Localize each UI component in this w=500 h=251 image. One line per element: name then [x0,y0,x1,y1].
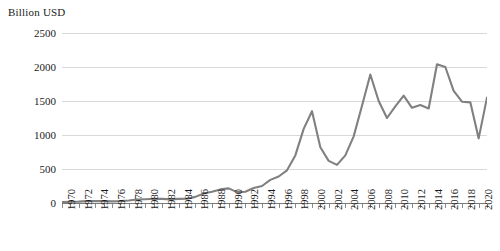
x-axis-tick-label: 1974 [99,189,110,210]
x-axis-tick-label: 2018 [466,189,477,210]
x-axis-tick-label: 2008 [383,189,394,210]
x-axis-tick-label: 1976 [116,189,127,210]
x-axis-tick-label: 2012 [416,189,427,210]
chart-container: Billion USD 25002000150010005000 1970197… [0,0,500,251]
x-axis-tick-label: 1986 [199,189,210,210]
x-axis-tick-label: 2014 [433,189,444,210]
x-axis-tick-label: 1982 [166,189,177,210]
x-axis-tick-label: 2000 [316,189,327,210]
x-axis-tick-label: 2010 [399,189,410,210]
x-axis-tick-labels: 1970197219741976197819801982198419861988… [0,0,500,251]
x-axis-tick-label: 2006 [366,189,377,210]
x-axis-tick-label: 2020 [483,189,494,210]
x-axis-tick-label: 2002 [333,189,344,210]
x-axis-tick-label: 1980 [149,189,160,210]
x-axis-tick-label: 1970 [66,189,77,210]
x-axis-tick-label: 1998 [299,189,310,210]
x-axis-tick-label: 1978 [133,189,144,210]
x-axis-tick-label: 2004 [349,189,360,210]
x-axis-tick-label: 2016 [449,189,460,210]
x-axis-tick-label: 1996 [283,189,294,210]
x-axis-tick-label: 1994 [266,189,277,210]
x-axis-tick-label: 1992 [249,189,260,210]
x-axis-tick-label: 1984 [183,189,194,210]
x-axis-tick-label: 1990 [233,189,244,210]
x-axis-tick-label: 1972 [83,189,94,210]
x-axis-tick-label: 1988 [216,189,227,210]
